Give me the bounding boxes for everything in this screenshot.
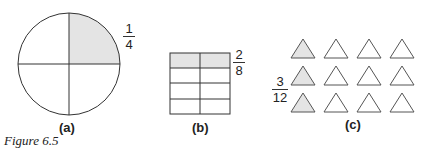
shaded-quarter (69, 13, 120, 64)
fraction-b-numerator: 2 (233, 48, 245, 61)
fraction-c-denominator: 12 (272, 91, 288, 104)
fraction-c-numerator: 3 (272, 75, 288, 88)
fraction-a-denominator: 4 (123, 38, 135, 51)
fraction-a-numerator: 1 (123, 22, 135, 35)
fraction-a: 1 4 (123, 22, 135, 51)
panel-c-label: (c) (345, 117, 361, 132)
figure-caption: Figure 6.5 (4, 133, 58, 149)
panel-c-triangles (291, 39, 414, 112)
panel-a-label: (a) (59, 120, 75, 135)
panel-a-circle (18, 13, 120, 115)
fraction-c: 3 12 (272, 75, 288, 104)
panel-b-label: (b) (192, 120, 209, 135)
fraction-b: 2 8 (233, 48, 245, 77)
fraction-b-denominator: 8 (233, 64, 245, 77)
panel-b-grid (170, 53, 230, 114)
